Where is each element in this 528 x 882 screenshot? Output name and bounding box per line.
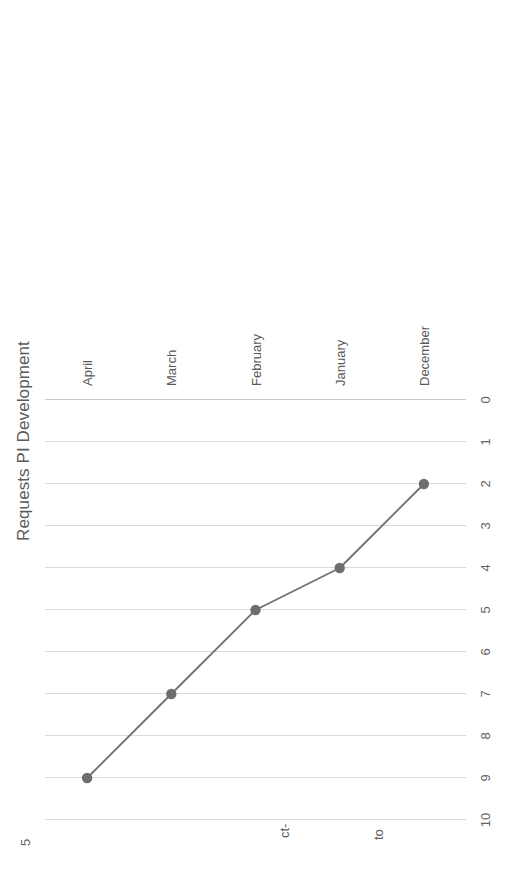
- value-tick-label-2: 2: [478, 480, 493, 487]
- plot-area: [45, 400, 466, 820]
- value-tick-label-1: 1: [478, 438, 493, 445]
- data-point-april[interactable]: [82, 773, 92, 783]
- data-point-february[interactable]: [250, 605, 260, 615]
- data-point-december[interactable]: [419, 479, 429, 489]
- line-series: [45, 400, 466, 820]
- category-label-january: January: [332, 340, 347, 386]
- category-label-february: February: [248, 334, 263, 386]
- value-tick-label-4: 4: [478, 564, 493, 571]
- value-tick-label-5: 5: [478, 606, 493, 613]
- chart-title: Requests PI Development: [14, 0, 34, 882]
- category-label-march: March: [164, 350, 179, 386]
- clipped-edge-text-1: ct-: [277, 824, 292, 838]
- value-tick-label-3: 3: [478, 522, 493, 529]
- value-tick-label-8: 8: [478, 732, 493, 739]
- series-line: [87, 484, 424, 778]
- value-tick-label-6: 6: [478, 648, 493, 655]
- clipped-edge-text-2: to: [371, 829, 386, 840]
- category-label-december: December: [416, 326, 431, 386]
- rotated-chart-container: Requests PI Development 012345678910 Dec…: [0, 0, 528, 882]
- value-tick-label-10: 10: [478, 813, 493, 827]
- value-tick-label-7: 7: [478, 690, 493, 697]
- chart-page: Requests PI Development 012345678910 Dec…: [0, 0, 528, 882]
- value-tick-label-0: 0: [478, 396, 493, 403]
- clipped-edge-text-0: 5: [18, 839, 33, 846]
- category-label-april: April: [80, 360, 95, 386]
- value-tick-label-9: 9: [478, 774, 493, 781]
- data-point-march[interactable]: [166, 689, 176, 699]
- data-point-january[interactable]: [335, 563, 345, 573]
